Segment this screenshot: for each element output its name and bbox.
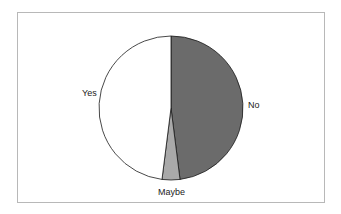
label-no: No bbox=[248, 100, 260, 110]
label-yes: Yes bbox=[82, 88, 97, 98]
pie-slice-no bbox=[171, 36, 243, 179]
pie-slice-yes bbox=[99, 36, 171, 179]
pie-chart bbox=[0, 0, 341, 214]
label-maybe: Maybe bbox=[158, 187, 185, 197]
